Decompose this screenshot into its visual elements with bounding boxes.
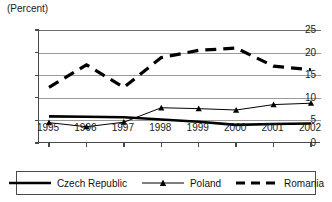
x-axis-label-1998: 1998	[149, 122, 171, 133]
chart-legend: Czech RepublicPolandRomania	[16, 171, 316, 195]
legend-label: Czech Republic	[57, 178, 127, 189]
x-axis-label-1997: 1997	[112, 122, 134, 133]
legend-label: Romania	[284, 178, 324, 189]
legend-swatch-thick-solid-line	[8, 177, 52, 189]
x-tick-mark-1996	[86, 143, 87, 147]
legend-swatch-thin-line-triangle-marker	[141, 177, 185, 189]
x-tick-mark-1999	[198, 143, 199, 147]
x-axis-label-2002: 2002	[299, 122, 321, 133]
legend-item-poland[interactable]: Poland	[141, 177, 221, 189]
legend-label: Poland	[190, 178, 221, 189]
x-axis-label-2001: 2001	[261, 122, 283, 133]
legend-swatch-thick-dashed-line	[235, 177, 279, 189]
x-tick-mark-1998	[161, 143, 162, 147]
series-line-romania	[49, 48, 311, 87]
x-tick-mark-2002	[310, 143, 311, 147]
x-axis-label-2000: 2000	[224, 122, 246, 133]
x-axis-label-1999: 1999	[187, 122, 209, 133]
x-tick-mark-2001	[273, 143, 274, 147]
x-tick-mark-1997	[123, 143, 124, 147]
x-tick-mark-1995	[48, 143, 49, 147]
x-axis-label-1996: 1996	[74, 122, 96, 133]
x-tick-mark-2000	[235, 143, 236, 147]
legend-item-romania[interactable]: Romania	[235, 177, 324, 189]
legend-item-czech-republic[interactable]: Czech Republic	[8, 177, 127, 189]
x-axis-label-1995: 1995	[37, 122, 59, 133]
chart-units-title: (Percent)	[7, 3, 48, 15]
line-chart: (Percent) 0510152025 1995199619971998199…	[0, 0, 332, 202]
